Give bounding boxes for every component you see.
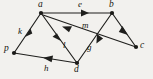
edge-label-k: k [18, 27, 22, 36]
edge-e-arrowhead [81, 10, 89, 17]
edge-label-g: g [87, 43, 92, 52]
edge-k-arrowhead [25, 29, 32, 37]
node-label-p: p [4, 44, 9, 53]
node-label-c: c [140, 41, 144, 50]
edge-b-c [112, 13, 136, 47]
edge-label-h: h [44, 64, 49, 73]
edge-label-l: l [63, 41, 66, 50]
node-b-dot [110, 11, 114, 15]
graph-diagram: a b c d p e k l m g h [0, 0, 153, 79]
node-c-dot [134, 45, 138, 49]
edge-l-arrowhead [53, 33, 61, 41]
edge-m-arrowhead [62, 26, 72, 32]
edge-e [41, 10, 112, 17]
node-p-dot [12, 51, 16, 55]
node-label-b: b [109, 0, 114, 9]
edge-b-c-arrowhead [119, 26, 128, 35]
edge-label-m: m [82, 21, 89, 30]
edge-label-e: e [78, 0, 82, 9]
node-label-d: d [74, 65, 79, 74]
node-label-a: a [38, 0, 43, 9]
node-a-dot [39, 11, 43, 15]
edge-h [14, 53, 77, 63]
edge-h-arrowhead [43, 56, 53, 63]
